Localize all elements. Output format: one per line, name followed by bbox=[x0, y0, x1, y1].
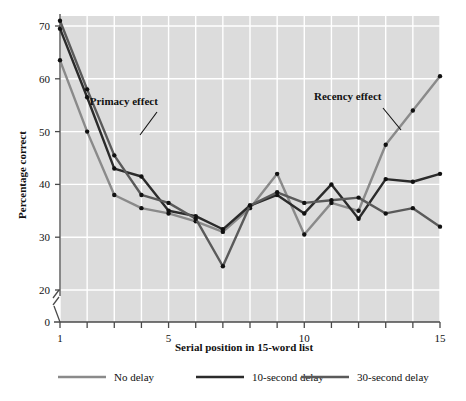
chart-canvas: 7060504030200 151015 Primacy effectRecen… bbox=[0, 0, 466, 401]
x-axis-tick-label: 15 bbox=[435, 332, 447, 344]
legend-item[interactable]: No delay bbox=[58, 371, 155, 383]
data-point-marker bbox=[221, 264, 225, 268]
data-point-marker bbox=[112, 193, 116, 197]
y-axis-break-mark-1 bbox=[53, 290, 59, 298]
data-point-marker bbox=[85, 129, 89, 133]
y-axis-tick-label-zero: 0 bbox=[45, 316, 51, 328]
data-point-marker bbox=[411, 108, 415, 112]
chart-annotation-label: Recency effect bbox=[314, 90, 382, 102]
data-point-marker bbox=[139, 174, 143, 178]
legend-item-label: 30-second delay bbox=[357, 371, 429, 383]
data-point-marker bbox=[438, 74, 442, 78]
data-point-marker bbox=[302, 211, 306, 215]
data-point-marker bbox=[411, 180, 415, 184]
data-point-marker bbox=[221, 227, 225, 231]
y-axis-break-lower bbox=[54, 306, 60, 322]
legend-item-label: No delay bbox=[114, 371, 155, 383]
y-axis-tick-label: 60 bbox=[39, 73, 51, 85]
x-axis-tick-label: 5 bbox=[166, 332, 172, 344]
y-axis-tick-label: 40 bbox=[39, 178, 51, 190]
data-point-marker bbox=[384, 211, 388, 215]
data-point-marker bbox=[58, 58, 62, 62]
data-point-marker bbox=[85, 87, 89, 91]
y-axis-title: Percentage correct bbox=[16, 131, 28, 219]
data-point-marker bbox=[302, 232, 306, 236]
chart-annotation-label: Primacy effect bbox=[90, 95, 158, 107]
y-axis-tick-label: 70 bbox=[39, 20, 51, 32]
data-point-marker bbox=[275, 172, 279, 176]
chart-legend: No delay10-second delay30-second delay bbox=[58, 371, 429, 383]
data-point-marker bbox=[329, 182, 333, 186]
data-point-marker bbox=[411, 206, 415, 210]
y-axis-tick-label: 30 bbox=[39, 231, 51, 243]
data-point-marker bbox=[356, 209, 360, 213]
y-axis-tick-labels: 7060504030200 bbox=[39, 20, 51, 328]
data-point-marker bbox=[438, 172, 442, 176]
x-axis-title: Serial position in 15-word list bbox=[175, 341, 313, 353]
data-point-marker bbox=[356, 217, 360, 221]
data-point-marker bbox=[356, 195, 360, 199]
x-axis-tick-label: 1 bbox=[57, 332, 63, 344]
data-point-marker bbox=[112, 153, 116, 157]
data-point-marker bbox=[194, 217, 198, 221]
data-point-marker bbox=[58, 19, 62, 23]
data-point-marker bbox=[248, 203, 252, 207]
data-point-marker bbox=[139, 206, 143, 210]
y-axis-tick-label: 50 bbox=[39, 126, 51, 138]
data-point-marker bbox=[384, 143, 388, 147]
data-point-marker bbox=[166, 209, 170, 213]
data-point-marker bbox=[139, 193, 143, 197]
data-point-marker bbox=[329, 198, 333, 202]
serial-position-curve-figure: 7060504030200 151015 Primacy effectRecen… bbox=[0, 0, 466, 401]
data-point-marker bbox=[302, 201, 306, 205]
y-axis-break-mark-2 bbox=[53, 297, 59, 305]
data-point-marker bbox=[275, 190, 279, 194]
y-axis-tick-label: 20 bbox=[39, 284, 51, 296]
data-point-marker bbox=[384, 177, 388, 181]
data-point-marker bbox=[438, 224, 442, 228]
data-point-marker bbox=[112, 166, 116, 170]
data-point-marker bbox=[166, 201, 170, 205]
